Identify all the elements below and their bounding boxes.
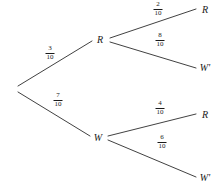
branch-probability-W-to-Wprime: 6 10 xyxy=(158,134,167,150)
branch-probability-R-to-R: 2 10 xyxy=(154,1,163,17)
branch-line-R-to-Wp xyxy=(110,42,196,68)
probability-tree-diagram: R W R W' R W' 3 10 7 10 2 10 8 10 4 10 6… xyxy=(0,0,220,192)
branch-probability-root-to-R: 3 10 xyxy=(46,45,55,61)
branch-probability-W-to-R: 4 10 xyxy=(156,100,165,116)
fraction-denominator: 10 xyxy=(156,41,165,49)
branch-probability-R-to-Wprime: 8 10 xyxy=(156,32,165,48)
fraction-denominator: 10 xyxy=(154,10,163,18)
fraction-denominator: 10 xyxy=(158,143,167,151)
node-label-level1-W: W xyxy=(94,133,102,143)
node-label-level1-R: R xyxy=(97,35,103,45)
branch-line-W-to-Wp xyxy=(108,140,196,177)
node-label-leaf-W-Wprime: W' xyxy=(200,173,210,183)
branch-line-W-to-R xyxy=(108,114,196,136)
fraction-denominator: 10 xyxy=(46,54,55,62)
fraction-denominator: 10 xyxy=(54,101,63,109)
branch-line-root-to-R xyxy=(18,41,92,86)
node-label-leaf-R-Wprime: W' xyxy=(200,63,210,73)
branch-probability-root-to-W: 7 10 xyxy=(54,92,63,108)
tree-branch-lines xyxy=(0,0,220,192)
node-label-leaf-W-R: R xyxy=(202,110,208,120)
fraction-denominator: 10 xyxy=(156,109,165,117)
node-label-leaf-R-R: R xyxy=(202,5,208,15)
